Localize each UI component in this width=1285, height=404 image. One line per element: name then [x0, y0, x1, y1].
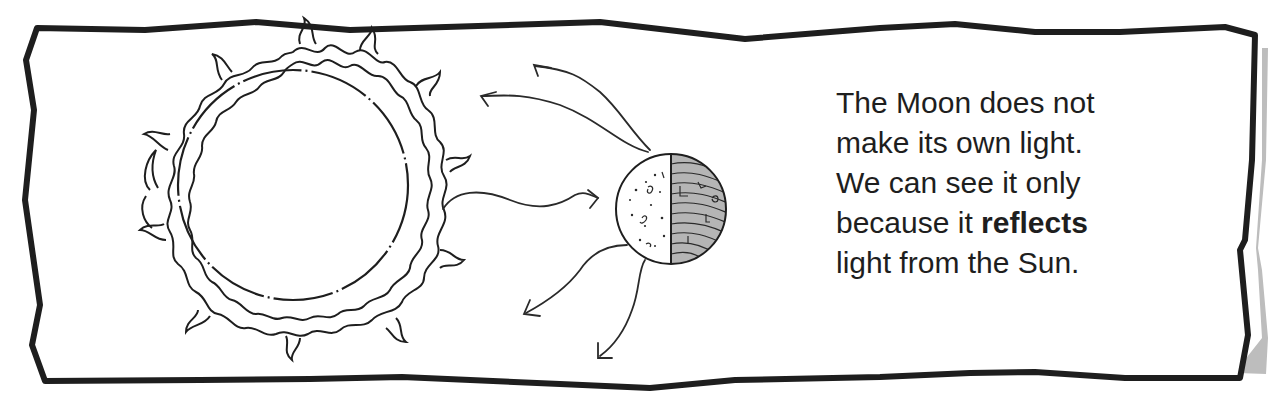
caption-keyword-reflects: reflects — [981, 206, 1088, 239]
diagram-panel: The Moon does not make its own light. We… — [0, 0, 1285, 404]
caption-text: The Moon does not make its own light. We… — [836, 83, 1166, 283]
caption-line-4-prefix: because it — [836, 206, 981, 239]
caption-line-2: make its own light. — [836, 123, 1166, 163]
caption-line-5: light from the Sun. — [836, 243, 1166, 283]
caption-line-4: because it reflects — [836, 203, 1166, 243]
caption-line-3: We can see it only — [836, 163, 1166, 203]
caption-line-1: The Moon does not — [836, 83, 1166, 123]
